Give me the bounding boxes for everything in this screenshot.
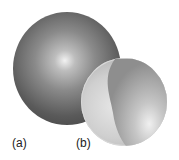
panel-label-a: (a)	[12, 136, 27, 150]
sphere-b-shaded-region	[81, 58, 167, 146]
sphere-b	[81, 58, 167, 146]
panel-label-b: (b)	[76, 136, 91, 150]
